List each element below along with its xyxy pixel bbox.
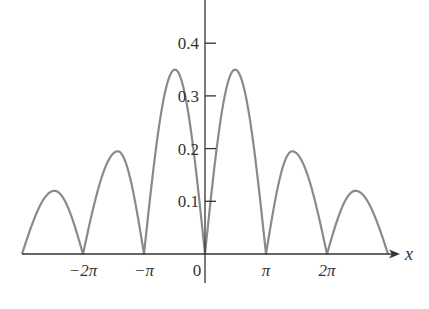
x-tick-label: 2π [318,261,336,280]
x-ticks: −2π−π0π2π [69,261,336,280]
x-tick-label: 0 [193,261,202,280]
chart: x 0.10.20.30.4 −2π−π0π2π [0,0,429,309]
y-tick-label: 0.1 [178,192,199,211]
x-tick-label: −π [134,261,154,280]
x-tick-label: −2π [69,261,98,280]
y-tick-label: 0.2 [178,140,199,159]
x-tick-label: π [262,261,271,280]
x-axis-label: x [404,244,413,264]
y-tick-label: 0.4 [178,34,200,53]
y-tick-label: 0.3 [178,87,199,106]
